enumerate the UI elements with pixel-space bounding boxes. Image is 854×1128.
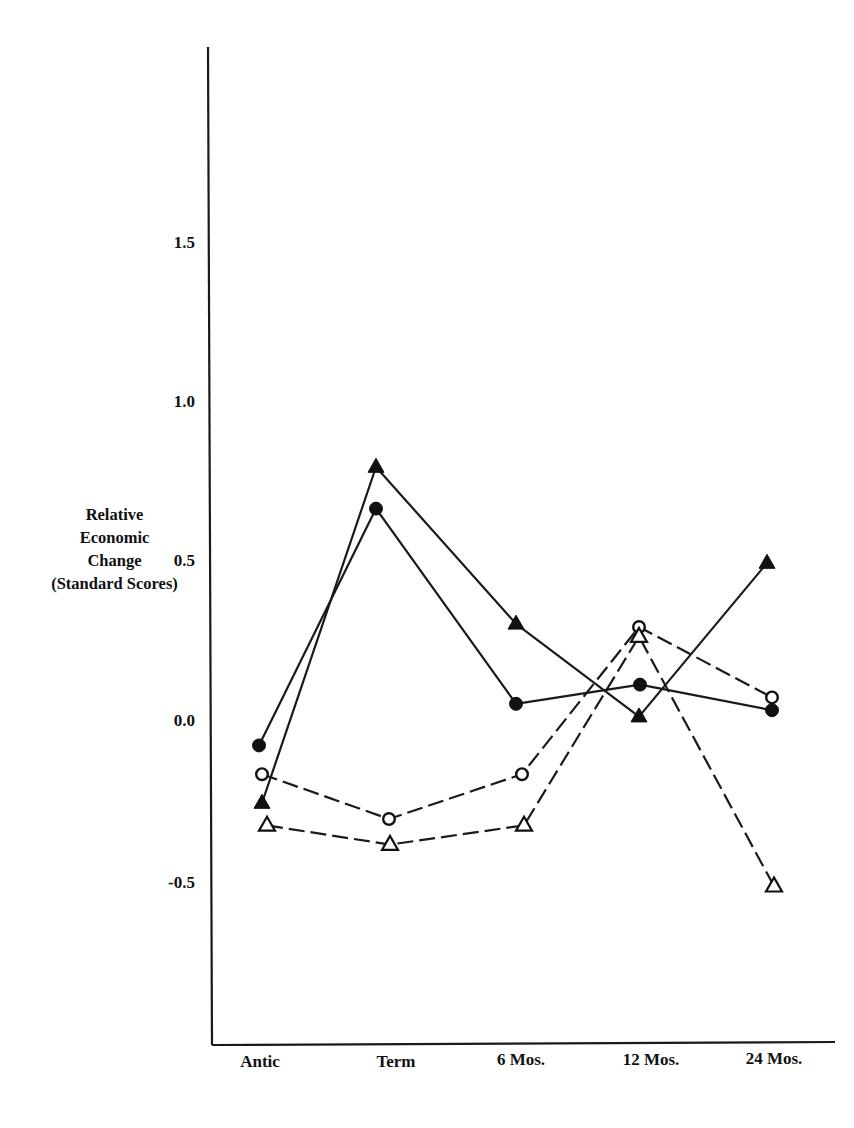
- x-tick-label-term: Term: [341, 1052, 451, 1072]
- open-circle-dashed-line: [262, 627, 772, 819]
- x-axis: [212, 1042, 835, 1045]
- y-tick-label: 0.0: [135, 711, 195, 731]
- open-triangle-marker: [766, 878, 782, 892]
- x-tick-label-24mos: 24 Mos.: [719, 1049, 829, 1069]
- open-triangle-marker: [516, 817, 532, 831]
- open-triangle-marker: [259, 817, 275, 831]
- open-circle-marker: [516, 768, 528, 780]
- y-axis-title: Relative Economic Change (Standard Score…: [22, 503, 207, 595]
- filled-circle-marker: [766, 704, 779, 717]
- y-tick-label: 1.0: [135, 392, 195, 412]
- filled-circle-marker: [510, 697, 523, 710]
- series-layer: [253, 458, 783, 891]
- y-tick-label: -0.5: [135, 873, 195, 893]
- filled-triangle-marker: [368, 458, 384, 472]
- filled-triangle-marker: [759, 554, 775, 568]
- x-tick-label-antic: Antic: [205, 1052, 315, 1072]
- filled-triangle-marker: [254, 794, 270, 808]
- x-tick-label-6mos: 6 Mos.: [466, 1050, 576, 1070]
- y-axis-title-line: Change: [22, 549, 207, 572]
- filled-circle-marker: [634, 678, 647, 691]
- open-circle-marker: [383, 813, 395, 825]
- y-axis-title-line: Relative: [22, 503, 207, 526]
- filled-triangle-solid-line: [262, 467, 767, 803]
- y-tick-label: 1.5: [135, 233, 195, 253]
- y-axis: [208, 47, 212, 1045]
- open-circle-marker: [256, 768, 268, 780]
- filled-circle-marker: [253, 739, 266, 752]
- y-axis-title-line: Economic: [22, 526, 207, 549]
- y-axis-title-line: (Standard Scores): [22, 572, 207, 595]
- open-triangle-dashed-line: [267, 637, 774, 887]
- x-tick-label-12mos: 12 Mos.: [596, 1050, 706, 1070]
- open-circle-marker: [766, 692, 778, 704]
- filled-circle-marker: [370, 502, 383, 515]
